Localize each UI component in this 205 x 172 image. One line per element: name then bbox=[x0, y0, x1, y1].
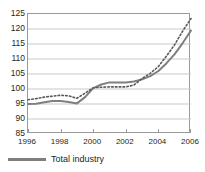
x-axis-labels: 199619982000200220042006 bbox=[27, 136, 190, 148]
y-tick-label: 115 bbox=[0, 39, 25, 48]
series-line-0 bbox=[28, 31, 191, 105]
x-tick-label: 2002 bbox=[116, 138, 134, 146]
data-lines bbox=[28, 19, 191, 105]
x-tick-mark bbox=[190, 129, 191, 133]
chart-title bbox=[0, 0, 205, 6]
x-tick-mark bbox=[28, 129, 29, 133]
plot-area bbox=[27, 13, 190, 133]
x-tick-mark bbox=[126, 129, 127, 133]
y-tick-label: 100 bbox=[0, 84, 25, 93]
y-tick-label: 120 bbox=[0, 24, 25, 33]
y-tick-label: 90 bbox=[0, 114, 25, 123]
x-tick-label: 2006 bbox=[181, 138, 199, 146]
x-tick-mark bbox=[61, 129, 62, 133]
y-tick-label: 125 bbox=[0, 9, 25, 18]
x-tick-label: 1996 bbox=[18, 138, 36, 146]
y-tick-label: 110 bbox=[0, 54, 25, 63]
legend-swatch-total-industry bbox=[8, 158, 46, 161]
x-tick-label: 1998 bbox=[51, 138, 69, 146]
series-layer bbox=[28, 14, 191, 134]
y-tick-label: 95 bbox=[0, 99, 25, 108]
legend-label-total-industry: Total industry bbox=[51, 155, 104, 164]
chart-container: 125120115110105100959085 199619982000200… bbox=[0, 0, 205, 172]
x-tick-label: 2004 bbox=[148, 138, 166, 146]
x-tick-mark bbox=[158, 129, 159, 133]
y-tick-label: 105 bbox=[0, 69, 25, 78]
gridlines bbox=[28, 29, 191, 119]
x-tick-label: 2000 bbox=[83, 138, 101, 146]
y-axis-labels: 125120115110105100959085 bbox=[0, 13, 25, 133]
chart-legend: Total industry bbox=[8, 155, 104, 164]
x-tick-mark bbox=[93, 129, 94, 133]
